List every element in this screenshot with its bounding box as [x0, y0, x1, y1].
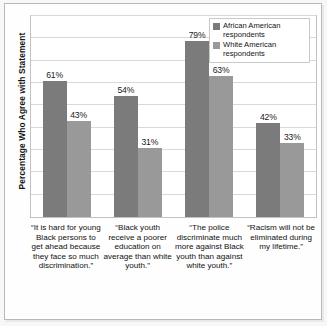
bar-value-label: 43%	[59, 110, 99, 120]
bar-value-label: 31%	[130, 137, 170, 147]
x-axis-category-label: “Racism will not be eliminated during my…	[245, 220, 317, 271]
bar[interactable]	[138, 148, 162, 217]
bar-value-label: 63%	[201, 65, 241, 75]
bar[interactable]	[67, 121, 91, 217]
legend-item: African American respondents	[213, 21, 306, 39]
bar[interactable]	[209, 76, 233, 217]
plot-area: 61%43%54%31%79%63%42%33% African America…	[30, 15, 317, 218]
x-axis-category-label: “It is hard for young Black persons to g…	[30, 220, 102, 271]
x-axis-category-labels: “It is hard for young Black persons to g…	[30, 220, 317, 271]
y-axis-title: Percentage Who Agree with Statement	[17, 11, 27, 211]
bar[interactable]	[280, 143, 304, 217]
bar-column: 79%	[185, 16, 209, 217]
bar-group: 54%31%	[102, 16, 173, 217]
x-axis-category-label: “The police discriminate much more again…	[174, 220, 246, 271]
bar-value-label: 33%	[272, 132, 312, 142]
bar-column: 43%	[67, 16, 91, 217]
chart-legend: African American respondents White Ameri…	[209, 18, 310, 63]
bar-group: 61%43%	[31, 16, 102, 217]
figure-container: Percentage Who Agree with Statement 61%4…	[0, 0, 327, 326]
legend-swatch-icon	[213, 42, 220, 49]
x-axis-category-label: “Black youth receive a poorer education …	[102, 220, 174, 271]
legend-label: White American respondents	[223, 40, 306, 58]
bar[interactable]	[43, 81, 67, 217]
legend-swatch-icon	[213, 23, 220, 30]
bar[interactable]	[114, 96, 138, 217]
bar-column: 54%	[114, 16, 138, 217]
legend-item: White American respondents	[213, 40, 306, 58]
legend-label: African American respondents	[223, 21, 306, 39]
bar-column: 31%	[138, 16, 162, 217]
